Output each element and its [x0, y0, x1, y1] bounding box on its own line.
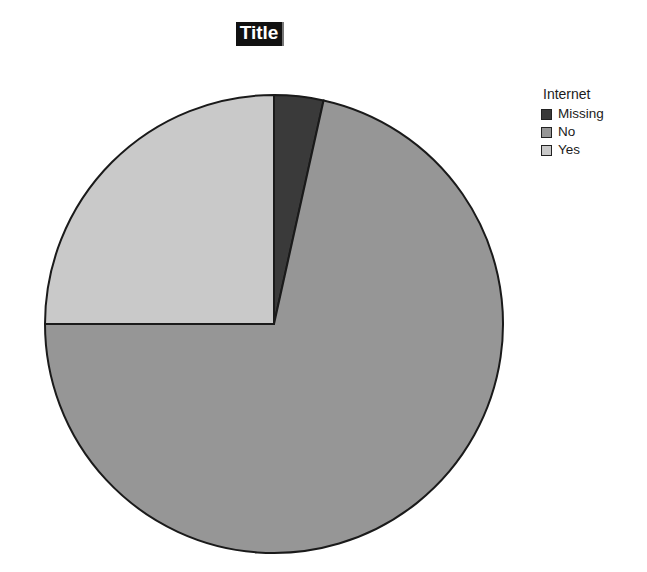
- legend-item-label: Yes: [558, 143, 580, 157]
- legend-swatch-icon-missing: [541, 109, 552, 120]
- legend-item-label: No: [558, 125, 575, 139]
- legend-item-label: Missing: [558, 107, 604, 121]
- chart-legend: Internet MissingNoYes: [541, 86, 641, 159]
- legend-swatch-icon-no: [541, 127, 552, 138]
- pie-slice-yes[interactable]: [45, 95, 274, 324]
- legend-item-missing[interactable]: Missing: [541, 105, 641, 123]
- legend-items: MissingNoYes: [541, 105, 641, 159]
- legend-item-no[interactable]: No: [541, 123, 641, 141]
- pie-slices-group: [45, 95, 503, 553]
- legend-title: Internet: [543, 86, 641, 102]
- pie-chart-figure: Title Internet MissingNoYes: [0, 0, 647, 572]
- legend-item-yes[interactable]: Yes: [541, 141, 641, 159]
- legend-swatch-icon-yes: [541, 145, 552, 156]
